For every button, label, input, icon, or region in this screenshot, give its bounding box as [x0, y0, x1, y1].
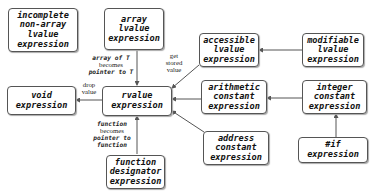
label-line: stored: [162, 59, 186, 66]
node-modifiable-lvalue: modifiable lvalue expression: [302, 33, 364, 67]
node-label: expression: [307, 150, 359, 160]
node-label: expression: [307, 55, 359, 65]
label-line: becomes: [90, 127, 134, 134]
label-line: pointer to T: [88, 68, 134, 75]
node-array-lvalue: array lvalue expression: [104, 8, 164, 50]
node-label: expression: [111, 101, 163, 111]
label-line: function: [90, 141, 134, 148]
node-label: expression: [309, 102, 361, 112]
label-line: get: [162, 52, 186, 59]
node-label: expression: [203, 55, 255, 65]
node-label: expression: [208, 102, 260, 112]
node-label: expression: [16, 101, 68, 111]
label-line: array of T: [88, 54, 134, 61]
node-label: expression: [108, 34, 160, 44]
node-if-expression: #if expression: [298, 137, 368, 163]
edge-label-drop-value: drop value: [78, 81, 100, 95]
node-rvalue: rvalue expression: [102, 86, 172, 116]
edge-label-array-decay: array of T becomes pointer to T: [88, 54, 134, 75]
node-void: void expression: [7, 86, 76, 115]
node-arithmetic-constant: arithmetic constant expression: [201, 80, 267, 114]
node-label: expression: [210, 153, 262, 163]
label-line: becomes: [88, 61, 134, 68]
node-integer-constant: integer constant expression: [302, 80, 367, 114]
node-incomplete-non-array-lvalue: incomplete non-array lvalue expression: [8, 8, 78, 52]
label-line: drop: [78, 81, 100, 88]
node-accessible-lvalue: accessible lvalue expression: [199, 33, 259, 67]
node-label: expression: [17, 40, 69, 50]
label-line: function: [90, 120, 134, 127]
edge-address-rvalue: [172, 111, 204, 132]
label-line: pointer to: [90, 134, 134, 141]
label-line: value: [78, 88, 100, 95]
node-address-constant: address constant expression: [203, 131, 269, 165]
label-line: value: [162, 66, 186, 73]
edge-label-get-stored-value: get stored value: [162, 52, 186, 73]
node-label: expression: [110, 177, 162, 187]
edge-label-function-decay: function becomes pointer to function: [90, 120, 134, 148]
node-function-designator: function designator expression: [106, 155, 165, 189]
